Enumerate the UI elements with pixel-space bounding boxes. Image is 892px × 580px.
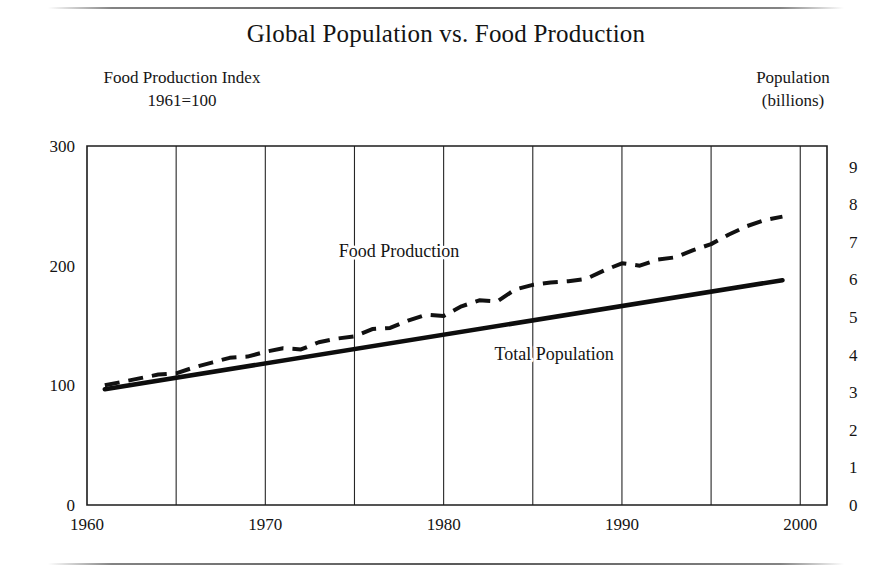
right-tick-3: 3 <box>849 383 858 402</box>
right-tick-5: 5 <box>849 308 858 327</box>
left-tick-100: 100 <box>50 376 76 395</box>
right-tick-9: 9 <box>849 158 858 177</box>
plot-frame <box>87 146 827 505</box>
right-tick-2: 2 <box>849 421 858 440</box>
plot-area: 0100200300 0123456789 196019701980199020… <box>0 0 892 580</box>
left-tick-300: 300 <box>50 137 76 156</box>
annotation-total-population: Total Population <box>495 344 614 364</box>
x-tick-1970: 1970 <box>248 515 282 534</box>
x-tick-1980: 1980 <box>427 515 461 534</box>
right-tick-1: 1 <box>849 458 858 477</box>
left-axis-tick-labels: 0100200300 <box>50 137 76 515</box>
right-tick-0: 0 <box>849 496 858 515</box>
x-tick-2000: 2000 <box>783 515 817 534</box>
axis-frame <box>87 146 827 505</box>
figure-container: Global Population vs. Food Production Fo… <box>0 0 892 580</box>
x-tick-1990: 1990 <box>605 515 639 534</box>
x-tick-1960: 1960 <box>70 515 104 534</box>
right-tick-7: 7 <box>849 233 858 252</box>
annotation-food-production: Food Production <box>339 241 460 261</box>
right-axis-tick-labels: 0123456789 <box>849 158 858 515</box>
right-tick-4: 4 <box>849 346 858 365</box>
x-axis-tick-labels: 19601970198019902000 <box>70 515 817 534</box>
left-tick-200: 200 <box>50 257 76 276</box>
left-tick-0: 0 <box>67 496 76 515</box>
right-tick-8: 8 <box>849 195 858 214</box>
right-tick-6: 6 <box>849 270 858 289</box>
bottom-divider-rule <box>48 563 844 565</box>
